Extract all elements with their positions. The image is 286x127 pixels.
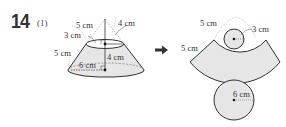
frustum-top-radius-label: 3 cm: [64, 30, 81, 40]
net-small-radius-label: 3 cm: [252, 24, 269, 34]
frustum-figure: 5 cm 3 cm 4 cm 5 cm 4 cm 6 cm: [54, 17, 144, 77]
frustum-slant-lower-label: 5 cm: [54, 48, 71, 58]
figure: 5 cm 3 cm 4 cm 5 cm 4 cm 6 cm 5 cm 3 cm …: [0, 0, 286, 127]
frustum-apex-segment-label: 4 cm: [118, 18, 135, 28]
net-inner-slant-label: 5 cm: [200, 18, 217, 28]
net-large-radius-label: 6 cm: [233, 89, 250, 99]
frustum-slant-upper-label: 5 cm: [76, 20, 93, 30]
frustum-bottom-radius-label: 6 cm: [79, 60, 96, 70]
right-arrow-icon: [155, 46, 168, 55]
net-figure: 5 cm 3 cm 5 cm 6 cm: [181, 17, 280, 120]
frustum-height-label: 4 cm: [107, 52, 124, 62]
net-outer-slant-label: 5 cm: [181, 43, 198, 53]
